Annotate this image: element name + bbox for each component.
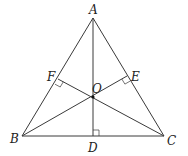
right-angle-marker-e [122, 79, 130, 84]
right-angle-marker-d [93, 130, 99, 136]
altitude-cf [58, 79, 164, 136]
side-ab [22, 18, 93, 136]
triangle-diagram: A B C D E F O [0, 0, 188, 156]
label-a: A [88, 3, 98, 17]
side-ac [93, 18, 164, 136]
label-b: B [9, 132, 19, 146]
diagram-canvas: A B C D E F O [0, 0, 188, 156]
label-c: C [167, 134, 176, 148]
label-f: F [46, 70, 56, 84]
right-angle-marker-f [55, 82, 63, 87]
label-d: D [87, 141, 98, 155]
altitude-be [22, 76, 127, 136]
label-e: E [130, 70, 140, 84]
label-o: O [92, 82, 102, 96]
